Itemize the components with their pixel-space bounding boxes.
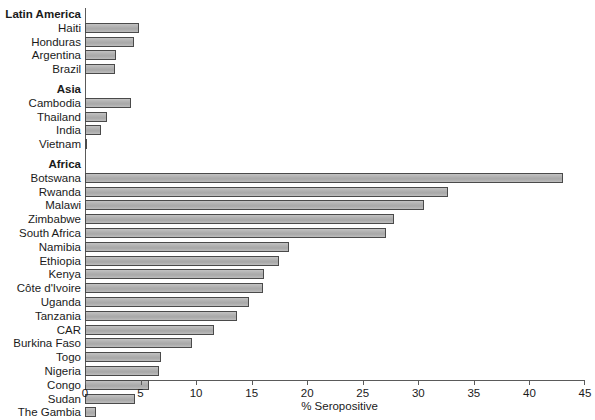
category-label: South Africa — [19, 227, 81, 240]
x-axis-tick — [196, 380, 197, 385]
category-label: Honduras — [31, 36, 81, 49]
category-label: Uganda — [41, 296, 81, 309]
bar-row: Nigeria — [85, 365, 585, 378]
category-label: Tanzania — [35, 310, 81, 323]
bar — [85, 242, 289, 252]
x-axis-tick — [418, 380, 419, 385]
bar — [85, 37, 134, 47]
x-axis-title-text: % Seropositive — [301, 400, 378, 412]
bar-row: South Africa — [85, 227, 585, 240]
category-label: Malawi — [45, 199, 81, 212]
x-axis-tick — [584, 380, 585, 385]
bar-row: Zimbabwe — [85, 213, 585, 226]
x-axis-tick-label: 15 — [245, 386, 258, 400]
category-label: Haiti — [58, 22, 81, 35]
bar — [85, 228, 386, 238]
x-axis-tick-label: 45 — [579, 386, 592, 400]
bar-row: Tanzania — [85, 310, 585, 323]
category-label: India — [56, 124, 81, 137]
bar — [85, 269, 264, 279]
category-label: Ethiopia — [39, 255, 81, 268]
bar — [85, 338, 192, 348]
category-label: Togo — [56, 351, 81, 364]
category-label: Nigeria — [45, 365, 81, 378]
x-axis-tick — [141, 380, 142, 385]
category-label: Zimbabwe — [28, 213, 81, 226]
bar-row: Brazil — [85, 63, 585, 76]
bar — [85, 139, 87, 149]
category-label: Burkina Faso — [13, 337, 81, 350]
bar-row: Argentina — [85, 49, 585, 62]
bar-row: Côte d'Ivoire — [85, 282, 585, 295]
bar — [85, 214, 394, 224]
x-axis-tick — [474, 380, 475, 385]
category-label: Argentina — [32, 49, 81, 62]
x-axis-tick-label: 20 — [301, 386, 314, 400]
bar-row: Botswana — [85, 172, 585, 185]
x-axis-tick — [252, 380, 253, 385]
bar — [85, 200, 424, 210]
bar — [85, 311, 237, 321]
bar-row: CAR — [85, 324, 585, 337]
bar — [85, 256, 279, 266]
bar — [85, 50, 116, 60]
x-axis-tick-label: 0 — [82, 386, 88, 400]
bar-row: Malawi — [85, 199, 585, 212]
x-axis-tick-label: 30 — [412, 386, 425, 400]
x-axis-tick — [85, 380, 86, 385]
x-axis-tick — [307, 380, 308, 385]
bar-row: Vietnam — [85, 138, 585, 151]
bar — [85, 352, 161, 362]
category-label: Cambodia — [29, 97, 81, 110]
bar-row: Kenya — [85, 268, 585, 281]
bar — [85, 64, 115, 74]
bar-row: Burkina Faso — [85, 337, 585, 350]
category-label: Congo — [47, 379, 81, 392]
category-label: Botswana — [30, 172, 81, 185]
bar-row: Haiti — [85, 22, 585, 35]
bar — [85, 366, 159, 376]
bar — [85, 187, 448, 197]
plot-area: Latin AmericaHaitiHondurasArgentinaBrazi… — [85, 8, 585, 380]
category-label: Brazil — [52, 63, 81, 76]
category-label: Thailand — [37, 111, 81, 124]
group-header-label: Asia — [57, 83, 81, 96]
group-header-label: Africa — [48, 158, 81, 171]
group-header-label: Latin America — [5, 8, 81, 21]
x-axis-tick-label: 10 — [190, 386, 203, 400]
group-header-asia: Asia — [85, 83, 585, 96]
bar-row: Rwanda — [85, 186, 585, 199]
bar — [85, 23, 139, 33]
bar-row: Ethiopia — [85, 255, 585, 268]
x-axis-tick-label: 5 — [137, 386, 143, 400]
bar-row: Thailand — [85, 111, 585, 124]
bar-row: Namibia — [85, 241, 585, 254]
bar-row: Uganda — [85, 296, 585, 309]
category-label: Côte d'Ivoire — [17, 282, 81, 295]
x-axis-tick-label: 40 — [523, 386, 536, 400]
category-label: Vietnam — [39, 138, 81, 151]
bar — [85, 173, 563, 183]
x-axis-tick — [363, 380, 364, 385]
x-axis-tick-label: 35 — [467, 386, 480, 400]
category-label: Kenya — [48, 268, 81, 281]
bar-row: Honduras — [85, 36, 585, 49]
bar — [85, 98, 131, 108]
category-label: Namibia — [39, 241, 81, 254]
seroprevalence-bar-chart: Latin AmericaHaitiHondurasArgentinaBrazi… — [0, 0, 595, 420]
bar — [85, 125, 101, 135]
bar — [85, 112, 107, 122]
bar-row: Togo — [85, 351, 585, 364]
bar — [85, 297, 249, 307]
x-axis-title: % Seropositive — [0, 400, 595, 412]
x-axis-tick-label: 25 — [356, 386, 369, 400]
bar — [85, 283, 263, 293]
bar-row: India — [85, 124, 585, 137]
category-label: CAR — [57, 324, 81, 337]
bar-row: Cambodia — [85, 97, 585, 110]
bar — [85, 325, 214, 335]
x-axis-tick — [529, 380, 530, 385]
bar-row: Congo — [85, 379, 585, 392]
group-header-africa: Africa — [85, 158, 585, 171]
category-label: Rwanda — [39, 186, 81, 199]
